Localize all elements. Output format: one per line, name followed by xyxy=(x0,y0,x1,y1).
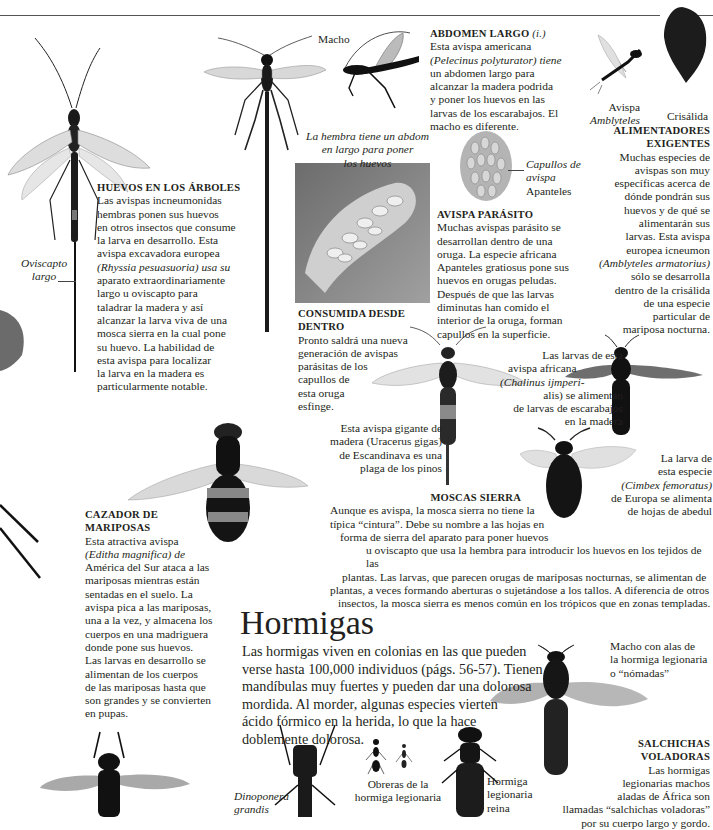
text-line: (Chalinus ijmperi- xyxy=(500,376,623,389)
caption-line: avispa xyxy=(526,171,581,184)
caption-line: Avispa xyxy=(570,101,640,114)
text-line: Pronto saldrá una nueva xyxy=(298,334,448,347)
caption-line: la hormiga legionaria xyxy=(610,653,713,666)
text-line: Esta avispa americana xyxy=(430,40,580,53)
caption-line: los huevos xyxy=(305,157,430,170)
text-line: mariposa nocturna. xyxy=(570,323,710,336)
caption-line: legionaria xyxy=(487,788,547,801)
capullos-leader-line xyxy=(508,170,524,171)
text-line: Después de que las larvas xyxy=(437,288,587,301)
text-line: parásitas de los xyxy=(298,360,448,373)
text-line: mariposas mientras están xyxy=(85,574,275,587)
text-line: esta oruga xyxy=(298,387,448,400)
abdomen-largo-heading: ABDOMEN LARGO (i.) xyxy=(430,27,580,40)
caterpillar-photo xyxy=(295,163,430,303)
text-line: avispa africana xyxy=(508,362,623,375)
alimentadores-heading-2: EXIGENTES xyxy=(570,137,710,150)
text-line: típica “cintura”. Debe su nombre a las h… xyxy=(290,518,713,531)
uracerus-caption: Esta avispa gigante de madera (Uracerus … xyxy=(320,422,442,475)
dinoponera-caption: Dinoponera grandis xyxy=(234,790,294,817)
text-line: alcanzar la larva viva de una xyxy=(97,314,292,327)
text-line: avispa excavadora europea xyxy=(97,247,292,260)
huevos-arboles-heading: HUEVOS EN LOS ÁRBOLES xyxy=(97,181,292,194)
text-line: Aunque es avispa, la mosca sierra no tie… xyxy=(290,504,713,517)
crisalida-caption: Crisálida xyxy=(667,110,708,123)
text-line: generación de avispas xyxy=(298,347,448,360)
partial-wasp-left-image xyxy=(0,305,30,375)
avispa-parasito-heading: AVISPA PARÁSITO xyxy=(437,208,587,221)
text-line: Apanteles gratiosus pone sus xyxy=(437,261,587,274)
text-line: La larva de xyxy=(600,452,712,465)
text-line: interior de la oruga, forman xyxy=(437,314,587,327)
abdomen-largo-block: ABDOMEN LARGO (i.) Esta avispa americana… xyxy=(430,27,580,133)
hembra-abdomen-caption: La hembra tiene un abdom en largo para p… xyxy=(305,130,430,170)
caption-line: Capullos de xyxy=(526,158,581,171)
text-line: Las larvas de esta xyxy=(500,349,623,362)
text-line: legionarias machos xyxy=(540,777,710,790)
avispa-parasito-block: AVISPA PARÁSITO Muchas avispas parásito … xyxy=(437,208,587,341)
text-line: larvas. Esta avispa xyxy=(570,230,710,243)
caption-line: o “nómadas” xyxy=(610,667,713,680)
text-line: madera (Uracerus gigas) xyxy=(320,435,442,448)
obreras-caption: Obreras de la hormiga legionaria xyxy=(348,778,448,805)
text-line: larvas de los escarabajos. El xyxy=(430,107,580,120)
oviscapto-leader-line xyxy=(58,281,76,282)
amblyteles-wasp-image xyxy=(588,30,648,95)
text-line: europea icneumon xyxy=(570,244,710,257)
text-line: mosca sierra en la cual pone xyxy=(97,327,292,340)
text-line: de Escandinava es una xyxy=(320,449,442,462)
text-line: avispas son muy xyxy=(570,164,710,177)
chalinus-caption: Las larvas de esta avispa africana (Chal… xyxy=(500,349,623,429)
partial-legs-image xyxy=(0,500,45,580)
bottom-left-wasp-image xyxy=(40,728,190,817)
reina-caption: Hormiga legionaria reina xyxy=(487,775,547,815)
text-line: particular de xyxy=(570,310,710,323)
apanteles-cocoons-image xyxy=(455,128,517,203)
caption-line: La hembra tiene un abdom xyxy=(305,130,430,143)
text-line: hembras ponen sus huevos xyxy=(97,208,292,221)
text-line: Muchas avispas parásito se xyxy=(437,221,587,234)
text-line: ácido fórmico en la herida, lo que la ha… xyxy=(242,713,552,731)
text-line: doblemente dolorosa. xyxy=(242,731,552,749)
text-line: Las hormigas xyxy=(540,764,710,777)
text-line: aladas de África son xyxy=(540,790,710,803)
text-line: un abdomen largo para xyxy=(430,67,580,80)
text-line: huevos y de qué se xyxy=(570,204,710,217)
huevos-arboles-block: HUEVOS EN LOS ÁRBOLES Las avispas incneu… xyxy=(97,181,292,394)
text-line: de larvas de escarabajos xyxy=(500,402,623,415)
text-line: capullos de xyxy=(298,373,448,386)
caption-line: Dinoponera xyxy=(234,790,294,803)
text-line: Esta atractiva avispa xyxy=(85,535,275,548)
capullos-caption: Capullos de avispa Apanteles xyxy=(526,158,581,198)
hormigas-title: Hormigas xyxy=(240,605,374,641)
caption-line: Macho con alas de xyxy=(610,640,713,653)
text-line: alimentarán sus xyxy=(570,217,710,230)
text-line: plantas. Las larvas, que parecen orugas … xyxy=(290,571,713,584)
text-line: dónde pondrán sus xyxy=(570,190,710,203)
caption-line: Oviscapto xyxy=(14,257,74,270)
text-line: plantas, a veces formando aberturas o su… xyxy=(290,584,713,597)
macho-alas-caption: Macho con alas de la hormiga legionaria … xyxy=(610,640,713,680)
text-line: en otros insectos que consume xyxy=(97,221,292,234)
text-line: Esta avispa gigante de xyxy=(320,422,442,435)
text-line: aparato extraordinariamente xyxy=(97,274,292,287)
text-line: alcanzar la madera podrida xyxy=(430,80,580,93)
text-line: plaga de los pinos xyxy=(320,462,442,475)
text-line: (Cimbex femoratus) xyxy=(600,479,712,492)
text-line: Muchas especies de xyxy=(570,151,710,164)
caption-line: Obreras de la xyxy=(348,778,448,791)
cazador-heading-2: MARIPOSAS xyxy=(85,521,275,534)
text-line: la larva en desarrollo. Esta xyxy=(97,234,292,247)
text-line: sólo se desarrolla xyxy=(570,270,710,283)
text-line: (Editha magnifica) de xyxy=(85,548,275,561)
text-line: (Pelecinus polyturator) tiene xyxy=(430,54,580,67)
cazador-heading: CAZADOR DE xyxy=(85,508,275,521)
text-line: y poner los huevos en las xyxy=(430,93,580,106)
caption-line: reina xyxy=(487,802,547,815)
text-line: dentro de la crisálida xyxy=(570,284,710,297)
caption-line: Hormiga xyxy=(487,775,547,788)
top-rule xyxy=(0,15,660,16)
text-line: Las hormigas viven en colonias en las qu… xyxy=(242,643,552,661)
text-line: llamadas “salchichas voladoras” xyxy=(540,803,710,816)
text-line: capullos en la superficie. xyxy=(437,328,587,341)
